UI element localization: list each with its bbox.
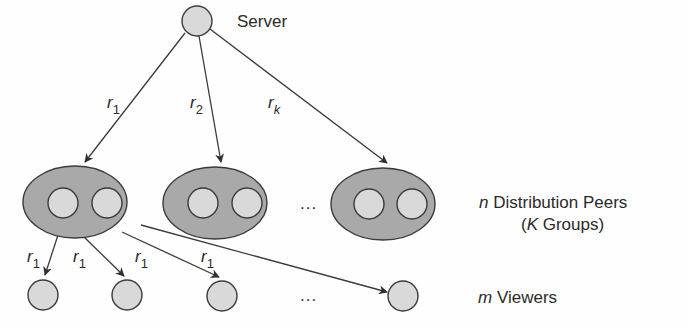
server-circle (182, 6, 212, 36)
peer-group-3 (331, 168, 435, 240)
viewer-edge-4-label: r1 (201, 247, 214, 271)
distribution-peer-1 (188, 188, 218, 218)
viewer-node-2 (112, 280, 142, 310)
groups-count-label: (K Groups) (521, 215, 604, 234)
viewer-edge-3-label: r1 (135, 247, 148, 271)
distribution-peers-label: n Distribution Peers (479, 193, 627, 212)
server-label: Server (237, 12, 287, 31)
viewers-label: m Viewers (478, 288, 557, 307)
diagram-svg: r1r2rkr1r1r1r1 Server ... ... n Distribu… (0, 0, 688, 328)
server-edge-2-label: r2 (190, 93, 203, 117)
groups-ellipsis: ... (300, 194, 317, 213)
distribution-peer-2 (92, 188, 122, 218)
rate-subscript: 1 (207, 256, 214, 271)
viewer-node-3 (207, 281, 237, 311)
viewer-edge-2-label: r1 (73, 247, 86, 271)
groups-variable: K (527, 215, 539, 234)
peer-group-1 (23, 166, 127, 238)
distribution-peer-1 (48, 188, 78, 218)
viewers-text: Viewers (492, 288, 557, 307)
server-edge-3-label: rk (268, 93, 282, 117)
viewer-node-4 (388, 281, 418, 311)
rate-subscript: 1 (33, 256, 40, 271)
server-edge-2 (199, 36, 221, 162)
viewer-edge-2 (83, 236, 124, 276)
distribution-peer-1 (354, 189, 384, 219)
server-edge-1-label: r1 (107, 93, 120, 117)
viewer-edge-1-label: r1 (27, 247, 40, 271)
server-edge-3 (210, 29, 387, 163)
distribution-peer-2 (232, 188, 262, 218)
distribution-diagram: r1r2rkr1r1r1r1 Server ... ... n Distribu… (0, 0, 688, 328)
distribution-peer-2 (397, 189, 427, 219)
rate-subscript: 1 (141, 256, 148, 271)
peer-group-2 (163, 167, 267, 239)
server-node (182, 6, 212, 36)
rate-subscript: k (274, 102, 282, 117)
edges (45, 29, 387, 292)
viewers-ellipsis: ... (300, 286, 317, 305)
viewer-edge-1 (45, 235, 58, 275)
rate-subscript: 1 (79, 256, 86, 271)
viewers-variable: m (478, 288, 492, 307)
rate-subscript: 1 (113, 102, 120, 117)
viewer-node-1 (28, 280, 58, 310)
server-edge-1 (85, 33, 185, 162)
groups-text: Groups) (538, 215, 604, 234)
distribution-peer-groups (23, 166, 435, 240)
rate-subscript: 2 (196, 102, 203, 117)
peers-text: Distribution Peers (488, 193, 627, 212)
peers-variable: n (479, 193, 488, 212)
